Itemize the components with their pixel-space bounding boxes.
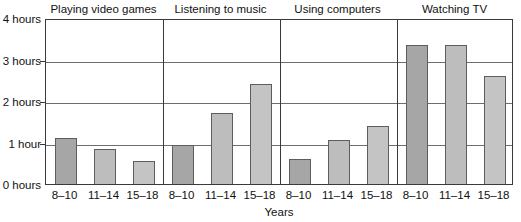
x-tick-label: 8–10	[286, 188, 312, 202]
x-tick-label: 11–14	[88, 188, 119, 202]
x-tick-label: 15–18	[127, 188, 159, 202]
panel-title-listening-music: Listening to music	[162, 1, 279, 18]
x-axis-title: Years	[45, 205, 513, 219]
bar	[445, 45, 467, 184]
x-tick-label: 8–10	[52, 188, 78, 202]
panel-titles: Playing video games Listening to music U…	[45, 1, 513, 18]
bar	[94, 149, 116, 184]
x-axis-tick-labels: 8–1011–1415–188–1011–1415–188–1011–1415–…	[45, 188, 513, 203]
y-axis-label-3: 3 hours	[1, 55, 45, 67]
bar	[484, 76, 506, 184]
x-tick-label: 8–10	[403, 188, 429, 202]
x-tick-label: 15–18	[478, 188, 510, 202]
bar	[211, 113, 233, 184]
bars-layer	[46, 20, 512, 184]
y-axis-label-4: 4 hours	[1, 13, 45, 25]
x-tick-label: 15–18	[244, 188, 276, 202]
bar	[328, 140, 350, 184]
y-axis-label-2: 2 hours	[1, 96, 45, 108]
y-axis-label-1: 1 hour	[1, 138, 45, 150]
x-tick-label: 11–14	[439, 188, 470, 202]
panel-title-using-computers: Using computers	[279, 1, 396, 18]
x-tick-label: 11–14	[205, 188, 236, 202]
x-tick-label: 11–14	[322, 188, 353, 202]
plot-area	[45, 19, 513, 185]
y-axis-label-0: 0 hours	[1, 179, 45, 191]
bar	[289, 159, 311, 184]
bar	[406, 45, 428, 184]
x-tick-label: 8–10	[169, 188, 195, 202]
bar	[55, 138, 77, 184]
bar	[250, 84, 272, 184]
bar	[133, 161, 155, 184]
bar-chart: Playing video games Listening to music U…	[0, 0, 521, 222]
panel-title-watching-tv: Watching TV	[396, 1, 513, 18]
panel-title-video-games: Playing video games	[45, 1, 162, 18]
bar	[367, 126, 389, 184]
x-tick-label: 15–18	[361, 188, 393, 202]
y-axis-labels: 0 hours1 hour2 hours3 hours4 hours	[0, 19, 45, 185]
bar	[172, 145, 194, 184]
